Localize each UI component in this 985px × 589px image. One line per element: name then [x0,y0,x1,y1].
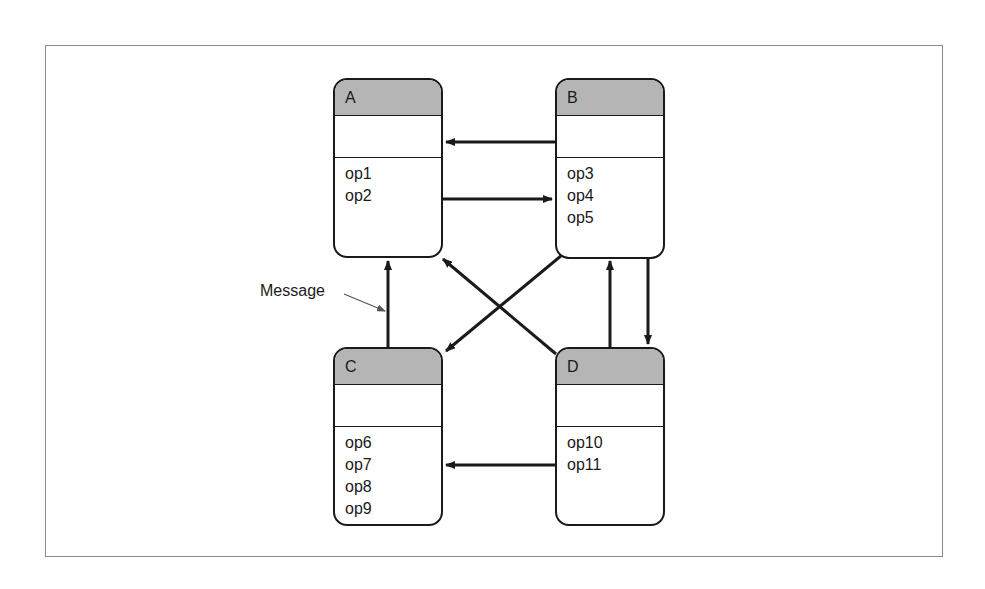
operation: op4 [567,185,663,207]
object-d: D op10 op11 [555,347,665,526]
object-a-name: A [335,80,441,116]
operation: op5 [567,207,663,229]
operation: op6 [345,432,441,454]
object-c-operations: op6 op7 op8 op9 [335,427,441,520]
message-arrows [0,0,985,589]
operation: op9 [345,498,441,520]
object-c-name: C [335,349,441,385]
operation: op11 [567,454,663,476]
operation: op3 [567,163,663,185]
operation: op1 [345,163,441,185]
object-c-attributes [335,385,441,427]
message-annotation-label: Message [260,282,325,300]
operation: op7 [345,454,441,476]
operation: op8 [345,476,441,498]
object-d-name: D [557,349,663,385]
object-d-attributes [557,385,663,427]
object-b-operations: op3 op4 op5 [557,158,663,229]
object-b: B op3 op4 op5 [555,78,665,259]
object-a-attributes [335,116,441,158]
message-arrow-b-to-c [446,255,562,351]
object-d-operations: op10 op11 [557,427,663,476]
message-leader-line [344,294,385,311]
object-b-attributes [557,116,663,158]
object-b-name: B [557,80,663,116]
object-a: A op1 op2 [333,78,443,258]
object-c: C op6 op7 op8 op9 [333,347,443,526]
object-a-operations: op1 op2 [335,158,441,207]
operation: op2 [345,185,441,207]
object-collaboration-diagram: A op1 op2 B op3 op4 op5 C op6 op7 op8 op… [0,0,985,589]
operation: op10 [567,432,663,454]
